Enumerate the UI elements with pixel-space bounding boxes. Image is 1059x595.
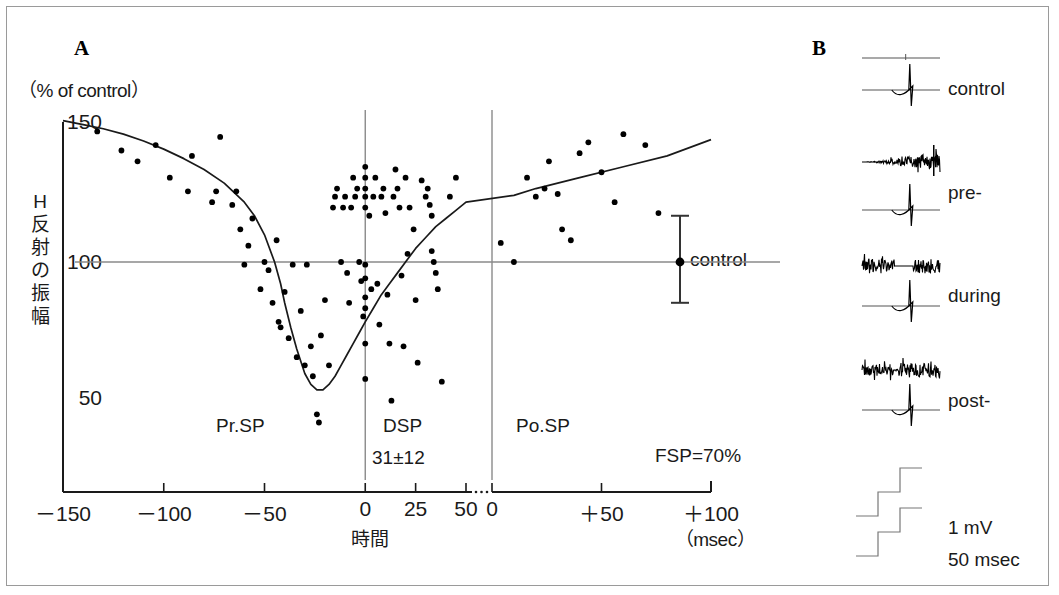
data-point	[237, 226, 243, 232]
data-point	[302, 362, 308, 368]
data-point	[354, 186, 360, 192]
data-point	[378, 194, 384, 200]
data-point	[209, 199, 215, 205]
data-point	[229, 202, 235, 208]
trace-control-hreflex-wave	[892, 64, 913, 106]
data-point	[387, 341, 393, 347]
data-point	[167, 175, 173, 181]
data-point	[135, 158, 141, 164]
data-point	[276, 319, 282, 325]
data-point	[294, 354, 300, 360]
data-point	[304, 262, 310, 268]
data-point	[559, 226, 565, 232]
data-point	[366, 213, 372, 219]
data-point	[282, 289, 288, 295]
data-point	[310, 373, 316, 379]
data-point	[316, 420, 322, 426]
data-point	[250, 216, 256, 222]
data-point	[326, 362, 332, 368]
data-point	[314, 411, 320, 417]
data-point	[340, 205, 346, 211]
data-point	[350, 175, 356, 181]
data-point	[599, 169, 605, 175]
data-point	[362, 186, 368, 192]
data-point	[189, 153, 195, 159]
data-point	[362, 164, 368, 170]
axis-break-dot-0	[475, 491, 478, 494]
fitted-curve	[63, 121, 711, 390]
data-point	[185, 188, 191, 194]
data-point	[318, 333, 324, 339]
data-point	[433, 270, 439, 276]
data-point	[427, 202, 433, 208]
trace-during-emg	[862, 254, 940, 273]
data-point	[338, 259, 344, 265]
data-point	[435, 286, 441, 292]
trace-pre-emg	[862, 149, 940, 172]
data-point	[241, 262, 247, 268]
data-point	[555, 191, 561, 197]
data-point	[533, 194, 539, 200]
data-point	[213, 188, 219, 194]
data-point	[429, 248, 435, 254]
data-point	[372, 175, 378, 181]
data-point	[233, 188, 239, 194]
data-point	[498, 240, 504, 246]
data-point	[362, 205, 368, 211]
data-point	[274, 237, 280, 243]
data-point	[419, 178, 425, 184]
data-point	[642, 142, 648, 148]
data-point	[217, 134, 223, 140]
data-point	[429, 213, 435, 219]
data-point	[262, 259, 268, 265]
data-point	[370, 194, 376, 200]
data-point	[362, 376, 368, 382]
data-point	[405, 251, 411, 257]
data-point	[524, 175, 530, 181]
axis-break-dot-1	[480, 491, 483, 494]
data-point	[330, 205, 336, 211]
data-point	[266, 267, 272, 273]
data-point	[383, 210, 389, 216]
data-point	[380, 186, 386, 192]
data-point	[344, 270, 350, 276]
data-point	[376, 322, 382, 328]
data-point	[385, 292, 391, 298]
data-point	[621, 131, 627, 137]
data-point	[407, 205, 413, 211]
trace-pre-hreflex-wave	[892, 184, 913, 226]
data-point	[352, 194, 358, 200]
data-point	[393, 167, 399, 173]
data-point	[415, 360, 421, 366]
data-point	[511, 259, 517, 265]
data-point	[362, 341, 368, 347]
data-point	[401, 343, 407, 349]
calibration-bar-upper	[856, 468, 922, 516]
data-point	[399, 273, 405, 279]
data-point	[362, 305, 368, 311]
data-point	[413, 297, 419, 303]
data-point	[119, 148, 125, 154]
trace-post-emg	[862, 358, 940, 380]
data-point	[270, 300, 276, 306]
axis-break-dot-2	[486, 491, 489, 494]
data-point	[362, 262, 368, 268]
data-point	[362, 194, 368, 200]
data-point	[542, 186, 548, 192]
data-point	[356, 259, 362, 265]
data-point	[332, 194, 338, 200]
data-point	[348, 205, 354, 211]
data-point	[245, 243, 251, 249]
data-point	[395, 186, 401, 192]
data-point	[403, 175, 409, 181]
data-point	[153, 142, 159, 148]
data-point	[585, 139, 591, 145]
data-point	[342, 194, 348, 200]
data-point	[278, 324, 284, 330]
control-mean-point	[676, 258, 685, 267]
trace-during-hreflex-wave	[892, 280, 913, 322]
data-point	[362, 175, 368, 181]
data-point	[362, 294, 368, 300]
data-point	[286, 335, 292, 341]
data-point	[298, 308, 304, 314]
